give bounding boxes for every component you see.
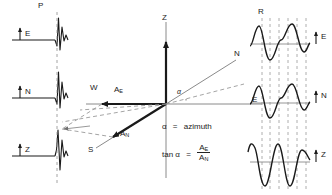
equation-tangent-azimuth: tan α = AE AN <box>162 143 210 163</box>
numerator-sub: E <box>205 146 209 152</box>
parallelogram-construction <box>62 104 166 137</box>
figure-vector-graphics <box>0 0 332 195</box>
axis-label-S: S <box>88 146 93 154</box>
equation-tan-numerator: AE <box>197 143 210 152</box>
right-trace-E <box>250 24 310 60</box>
equation-azimuth-definition: α = azimuth <box>162 122 212 131</box>
axis-label-Z: Z <box>162 14 167 22</box>
figure-canvas: P E N Z Z E W N S AE AN α α = azimuth ta… <box>0 0 332 195</box>
right-trace-N <box>250 84 310 118</box>
trace-label-right-Z: Z <box>321 151 326 159</box>
vector-label-A-E: AE <box>114 86 123 95</box>
denominator-sub: N <box>204 157 208 163</box>
equation-azimuth-lhs: α <box>162 122 167 131</box>
vector-A-E-sub: E <box>119 88 123 94</box>
vector-A-N-sub: N <box>125 132 129 138</box>
equation-tan-op: = <box>182 150 195 159</box>
equation-tan-denominator: AN <box>197 152 210 162</box>
equation-azimuth-rhs: azimuth <box>184 122 212 131</box>
resultant-arrow <box>64 126 90 129</box>
equation-tan-lhs: tan α <box>162 150 180 159</box>
equation-azimuth-op: = <box>169 122 182 131</box>
axis-label-W: W <box>90 84 98 92</box>
axis-label-N: N <box>234 50 240 58</box>
equation-tan-fraction: AE AN <box>197 143 210 163</box>
phase-label-P: P <box>38 2 43 10</box>
azimuth-angle-marker: α <box>177 88 181 95</box>
trace-label-right-E: E <box>321 33 326 41</box>
phase-label-R: R <box>258 8 264 16</box>
trace-label-right-N: N <box>321 92 327 100</box>
vector-label-A-N: AN <box>120 130 129 139</box>
trace-label-left-E: E <box>25 30 30 38</box>
trace-label-left-Z: Z <box>25 146 30 154</box>
axis-label-E: E <box>252 96 257 104</box>
trace-label-left-N: N <box>25 88 31 96</box>
